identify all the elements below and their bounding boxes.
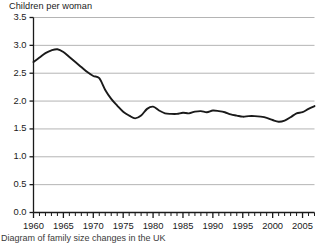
y-axis-tick-label: 3.5 — [1, 11, 27, 22]
line-chart-plot-area — [0, 0, 322, 243]
y-axis-tick-label: 1.5 — [1, 122, 27, 133]
y-axis-tick-label: 1.0 — [1, 150, 27, 161]
y-axis-tick-label: 2.0 — [1, 95, 27, 106]
y-axis-tick-label: 3.0 — [1, 39, 27, 50]
y-axis-tick-label: 2.5 — [1, 67, 27, 78]
data-series-line — [34, 49, 315, 122]
figure-children-per-woman: Children per woman 0.00.51.01.52.02.53.0… — [0, 0, 322, 243]
x-axis-tick-label: 2005 — [283, 220, 322, 231]
figure-caption: Diagram of family size changes in the UK — [1, 233, 166, 243]
y-axis-tick-label: 0.5 — [1, 178, 27, 189]
y-axis-tick-label: 0.0 — [1, 206, 27, 217]
